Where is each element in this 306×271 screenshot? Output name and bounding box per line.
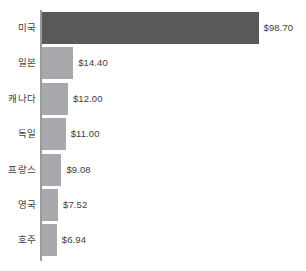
category-label: 미국 <box>0 12 36 44</box>
bar-chart: 미국$98.70일본$14.40캐나다$12.00독일$11.00프랑스$9.0… <box>0 0 306 271</box>
category-label: 일본 <box>0 47 36 79</box>
bar-value-label: $98.70 <box>264 12 294 44</box>
bar-segment <box>42 47 74 79</box>
bar-segment <box>42 118 66 150</box>
plot-area: 미국$98.70일본$14.40캐나다$12.00독일$11.00프랑스$9.0… <box>0 0 306 271</box>
category-label: 호주 <box>0 224 36 256</box>
category-label: 캐나다 <box>0 83 36 115</box>
bar-row: 호주$6.94 <box>0 224 306 256</box>
bar-row: 캐나다$12.00 <box>0 83 306 115</box>
bar-row: 프랑스$9.08 <box>0 154 306 186</box>
bar-row: 영국$7.52 <box>0 189 306 221</box>
category-label: 프랑스 <box>0 154 36 186</box>
bar-value-label: $6.94 <box>62 224 86 256</box>
bar-row: 미국$98.70 <box>0 12 306 44</box>
bar-value-label: $12.00 <box>73 83 103 115</box>
bar-value-label: $9.08 <box>66 154 90 186</box>
bar-segment <box>42 12 259 44</box>
bar-segment <box>42 224 57 256</box>
bar-row: 독일$11.00 <box>0 118 306 150</box>
bar-value-label: $14.40 <box>78 47 108 79</box>
bar-row: 일본$14.40 <box>0 47 306 79</box>
bar-segment <box>42 83 68 115</box>
category-label: 영국 <box>0 189 36 221</box>
bar-segment <box>42 154 62 186</box>
bar-value-label: $11.00 <box>71 118 100 150</box>
category-label: 독일 <box>0 118 36 150</box>
bar-value-label: $7.52 <box>63 189 87 221</box>
bar-segment <box>42 189 59 221</box>
